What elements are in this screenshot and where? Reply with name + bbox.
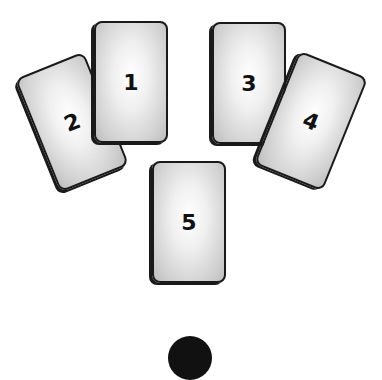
- card-5-number: 5: [181, 210, 196, 235]
- card-1-number: 1: [123, 70, 138, 95]
- card-3-number: 3: [241, 71, 256, 96]
- card-5: 5: [152, 161, 226, 283]
- card-2-number: 2: [60, 108, 84, 137]
- card-1: 1: [94, 21, 168, 143]
- seeker-marker-circle: [168, 336, 212, 380]
- card-4-number: 4: [299, 107, 323, 136]
